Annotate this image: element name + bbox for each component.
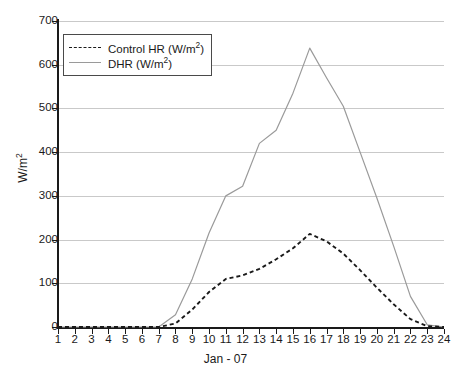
legend: Control HR (W/m2) DHR (W/m2) xyxy=(63,34,212,76)
legend-swatch-dashed-icon xyxy=(69,47,101,48)
x-axis-title: Jan - 07 xyxy=(0,352,451,366)
chart-container: 0100200300400500600700 12345678910111213… xyxy=(0,0,451,379)
y-axis-title: W/m2 xyxy=(14,128,30,208)
legend-swatch-solid-icon xyxy=(69,62,101,63)
series-line-dhr xyxy=(58,48,444,327)
legend-item-control-hr: Control HR (W/m2) xyxy=(69,40,204,55)
series-line-control-hr xyxy=(58,234,444,327)
legend-label-dhr: DHR (W/m2) xyxy=(108,54,172,71)
legend-item-dhr: DHR (W/m2) xyxy=(69,55,204,70)
